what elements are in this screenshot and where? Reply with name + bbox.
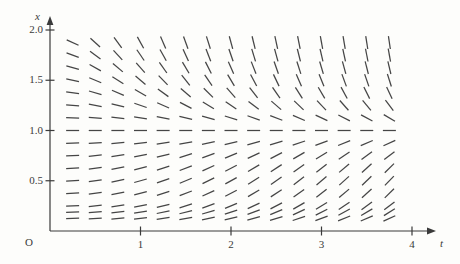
slope-segment <box>293 203 304 210</box>
slope-segment <box>250 88 258 98</box>
slope-segment <box>273 74 279 86</box>
slope-segment <box>316 209 328 215</box>
slope-segment <box>252 36 255 49</box>
slope-segment <box>339 152 350 159</box>
slope-segment <box>225 153 237 158</box>
slope-segment <box>89 205 102 206</box>
slope-segment <box>385 100 393 110</box>
slope-segment <box>363 100 371 110</box>
slope-segment <box>179 217 192 219</box>
t-axis-tick-label: 1 <box>121 238 161 250</box>
slope-segment <box>320 49 323 62</box>
slope-segment <box>111 117 124 119</box>
slope-segment <box>385 176 394 185</box>
x-axis-tick-label: 2.0 <box>0 23 43 35</box>
slope-segment <box>66 168 79 169</box>
slope-segment <box>338 115 350 121</box>
slope-segment <box>365 61 368 74</box>
slope-segment <box>316 152 327 159</box>
slope-segment <box>271 101 281 110</box>
slope-segment <box>366 49 369 62</box>
slope-segment <box>182 75 190 85</box>
slope-segment <box>134 179 147 182</box>
slope-segment <box>362 176 371 185</box>
slope-segment <box>293 216 305 220</box>
slope-segment <box>316 164 326 172</box>
slope-segment <box>338 209 349 215</box>
slope-segment <box>112 104 125 107</box>
slope-segment <box>248 153 260 158</box>
slope-segment <box>293 209 305 214</box>
slope-segment <box>247 217 260 220</box>
slope-segment <box>362 189 372 198</box>
slope-segment <box>113 50 122 60</box>
x-axis-arrowhead <box>47 16 54 25</box>
slope-segment <box>294 177 304 185</box>
slope-segment <box>365 74 369 86</box>
slope-segment <box>339 176 349 185</box>
slope-segment <box>225 203 237 208</box>
slope-segment <box>293 152 304 159</box>
slope-segment <box>315 141 327 145</box>
y-axis-label: x <box>35 10 40 22</box>
slope-segment <box>66 155 79 156</box>
slope-segment <box>362 164 372 173</box>
slope-segment <box>275 49 278 62</box>
slope-segment <box>206 36 210 48</box>
slope-segment <box>247 141 260 144</box>
slope-segment <box>134 205 147 208</box>
slope-segment <box>388 49 390 62</box>
t-axis-tick-label: 3 <box>302 238 342 250</box>
slope-segment <box>388 36 390 49</box>
slope-segment <box>362 202 372 210</box>
slope-segment <box>202 165 214 170</box>
slope-segment <box>361 115 372 121</box>
slope-segment <box>89 91 101 95</box>
slope-segment <box>228 75 235 86</box>
slope-segment <box>158 89 169 97</box>
slope-segment <box>271 165 282 172</box>
slope-segment <box>364 87 370 99</box>
slope-segment <box>293 115 305 120</box>
slope-segment <box>134 211 147 213</box>
slope-segment <box>134 154 147 157</box>
slope-segment <box>252 49 256 61</box>
slope-segment <box>297 62 301 74</box>
slope-segment <box>225 116 237 120</box>
slope-segment <box>134 117 147 119</box>
axis-ticks-group <box>46 30 413 236</box>
slope-segment <box>66 118 79 119</box>
slope-segment <box>229 36 232 49</box>
slope-segment <box>203 178 215 184</box>
slope-segment <box>271 190 282 197</box>
slope-segment <box>270 116 282 121</box>
slope-segment <box>67 53 79 57</box>
slope-segment <box>159 76 168 85</box>
slope-segment <box>320 36 322 49</box>
slope-segment <box>340 101 349 111</box>
slope-segment <box>184 36 188 48</box>
slope-segment <box>251 75 257 86</box>
slope-segment <box>66 92 79 94</box>
slope-segment <box>226 102 237 109</box>
slope-segment <box>343 36 345 49</box>
slope-segment <box>248 190 259 197</box>
slope-segment <box>225 178 236 184</box>
slope-segment <box>136 76 146 84</box>
slope-segment <box>157 103 169 108</box>
slope-segment <box>179 116 192 119</box>
slope-segment <box>157 211 170 214</box>
slope-segment <box>134 142 147 144</box>
slope-segment <box>161 37 166 49</box>
slope-segment <box>366 36 368 49</box>
slope-segment <box>338 216 350 221</box>
slope-segment <box>296 74 301 86</box>
slope-segment <box>202 116 215 119</box>
slope-segment <box>157 179 169 183</box>
slope-segment <box>66 206 79 207</box>
slope-segment <box>67 40 79 45</box>
slope-segment <box>384 115 395 122</box>
slope-segment <box>157 191 169 195</box>
x-axis-tick-label: 1.5 <box>0 73 43 85</box>
slope-segment <box>137 50 144 61</box>
